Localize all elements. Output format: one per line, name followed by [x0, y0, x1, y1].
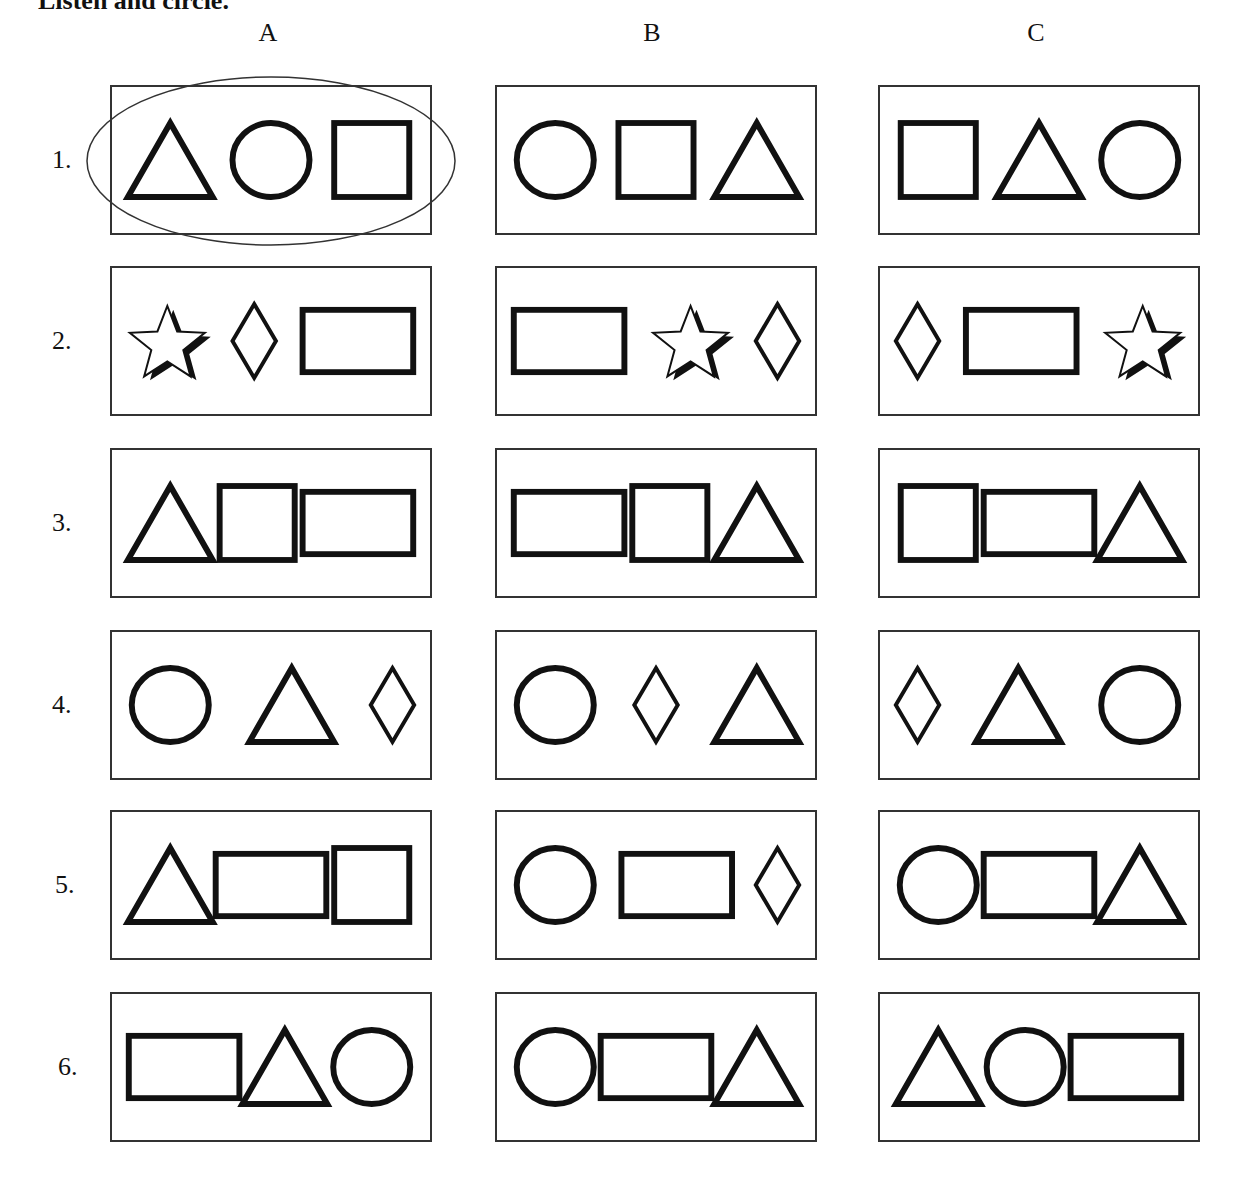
option-6-a[interactable] [110, 992, 432, 1142]
square-icon [618, 123, 693, 197]
circle-icon [333, 1030, 410, 1104]
option-2-a[interactable] [110, 266, 432, 416]
diamond-icon [232, 304, 275, 378]
option-6-c[interactable] [878, 992, 1200, 1142]
question-number-3: 3. [52, 508, 92, 538]
column-label-c: C [1016, 18, 1056, 48]
option-2-b[interactable] [495, 266, 817, 416]
question-number-4: 4. [52, 690, 92, 720]
rectangle-icon [984, 492, 1095, 554]
circle-icon [1101, 668, 1178, 742]
square-icon [334, 123, 409, 197]
triangle-icon [128, 486, 213, 560]
rectangle-icon [601, 1036, 712, 1098]
square-icon [901, 123, 976, 197]
triangle-icon [714, 123, 799, 197]
circle-icon [517, 123, 594, 197]
rectangle-icon [514, 310, 625, 372]
circle-icon [232, 123, 309, 197]
rectangle-icon [621, 854, 732, 916]
option-3-b[interactable] [495, 448, 817, 598]
rectangle-icon [303, 310, 414, 372]
circle-icon [900, 848, 977, 922]
triangle-icon [128, 848, 213, 922]
diamond-icon [896, 668, 939, 742]
option-5-b[interactable] [495, 810, 817, 960]
rectangle-icon [984, 854, 1095, 916]
triangle-icon [714, 486, 799, 560]
option-5-c[interactable] [878, 810, 1200, 960]
star-icon [1105, 306, 1186, 380]
question-number-6: 6. [58, 1052, 98, 1082]
triangle-icon [976, 668, 1061, 742]
triangle-icon [714, 1030, 799, 1104]
question-number-1: 1. [52, 145, 92, 175]
diamond-icon [756, 304, 799, 378]
circle-icon [1101, 123, 1178, 197]
diamond-icon [896, 304, 939, 378]
triangle-icon [896, 1030, 981, 1104]
rectangle-icon [1071, 1036, 1182, 1098]
column-label-a: A [248, 18, 288, 48]
triangle-icon [997, 123, 1082, 197]
option-2-c[interactable] [878, 266, 1200, 416]
question-number-2: 2. [52, 326, 92, 356]
option-4-b[interactable] [495, 630, 817, 780]
triangle-icon [714, 668, 799, 742]
instruction-title: Listen and circle. [38, 0, 229, 16]
option-3-c[interactable] [878, 448, 1200, 598]
square-icon [334, 848, 409, 922]
square-icon [220, 486, 295, 560]
option-5-a[interactable] [110, 810, 432, 960]
rectangle-icon [514, 492, 625, 554]
option-3-a[interactable] [110, 448, 432, 598]
rectangle-icon [216, 854, 327, 916]
rectangle-icon [129, 1036, 240, 1098]
option-1-c[interactable] [878, 85, 1200, 235]
rectangle-icon [966, 310, 1077, 372]
triangle-icon [242, 1030, 327, 1104]
star-icon [653, 306, 734, 380]
circle-icon [517, 848, 594, 922]
diamond-icon [756, 848, 799, 922]
option-1-b[interactable] [495, 85, 817, 235]
option-6-b[interactable] [495, 992, 817, 1142]
circle-icon [517, 668, 594, 742]
diamond-icon [371, 668, 414, 742]
triangle-icon [128, 123, 213, 197]
square-icon [632, 486, 707, 560]
triangle-icon [249, 668, 334, 742]
column-label-b: B [632, 18, 672, 48]
square-icon [901, 486, 976, 560]
option-1-a[interactable] [110, 85, 432, 235]
question-number-5: 5. [55, 870, 95, 900]
circle-icon [987, 1030, 1064, 1104]
rectangle-icon [303, 492, 414, 554]
option-4-a[interactable] [110, 630, 432, 780]
circle-icon [132, 668, 209, 742]
option-4-c[interactable] [878, 630, 1200, 780]
circle-icon [517, 1030, 594, 1104]
triangle-icon [1097, 486, 1182, 560]
diamond-icon [634, 668, 677, 742]
triangle-icon [1097, 848, 1182, 922]
star-icon [130, 306, 211, 380]
